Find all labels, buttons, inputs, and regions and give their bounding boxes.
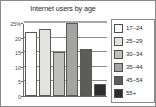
legend-swatch-icon	[114, 50, 123, 59]
legend-item[interactable]: 45–54	[114, 74, 154, 87]
y-axis-tick-label: 25%	[10, 21, 21, 27]
legend-item[interactable]: 55+	[114, 87, 154, 100]
legend-item[interactable]: 35–44	[114, 61, 154, 74]
bar	[53, 52, 65, 96]
legend-swatch-icon	[114, 76, 123, 85]
bar	[94, 84, 106, 96]
legend-swatch-icon	[114, 24, 123, 33]
y-axis-tick-label: 10	[15, 65, 21, 71]
bar	[80, 49, 92, 96]
y-axis-tick-label: 5	[18, 79, 21, 85]
legend-swatch-icon	[114, 37, 123, 46]
bar	[39, 29, 51, 96]
legend-label: 17–24	[126, 25, 143, 32]
plot-area	[23, 24, 107, 97]
legend-label: 25–29	[126, 38, 143, 45]
legend-item[interactable]: 25–29	[114, 35, 154, 48]
bar	[66, 23, 78, 96]
legend-label: 30–34	[126, 51, 143, 58]
legend-label: 35–44	[126, 64, 143, 71]
chart-legend: 17–2425–2930–3435–4445–5455+	[111, 19, 155, 103]
legend-swatch-icon	[114, 63, 123, 72]
legend-swatch-icon	[114, 89, 123, 98]
legend-label: 55+	[126, 90, 136, 97]
bar	[25, 32, 37, 96]
chart-title: Internet users by age	[15, 4, 111, 13]
y-axis-tick-label: 0	[18, 94, 21, 100]
legend-item[interactable]: 17–24	[114, 22, 154, 35]
legend-label: 45–54	[126, 77, 143, 84]
bar-series	[24, 24, 107, 96]
y-axis: 0510152025%	[1, 24, 21, 97]
y-axis-tick-label: 15	[15, 50, 21, 56]
legend-item[interactable]: 30–34	[114, 48, 154, 61]
chart-container: Internet users by age 0510152025% 17–242…	[0, 0, 156, 107]
y-axis-tick-label: 20	[15, 36, 21, 42]
